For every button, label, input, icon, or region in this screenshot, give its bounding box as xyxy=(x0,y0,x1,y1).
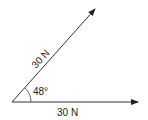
angle-label: 48° xyxy=(33,86,48,97)
vector-diagram: 48° 30 N 30 N xyxy=(0,0,148,120)
angle-arc xyxy=(25,88,31,102)
horizontal-magnitude-label: 30 N xyxy=(57,107,78,118)
diagonal-vector xyxy=(12,9,95,102)
diagonal-magnitude-label: 30 N xyxy=(29,47,51,70)
